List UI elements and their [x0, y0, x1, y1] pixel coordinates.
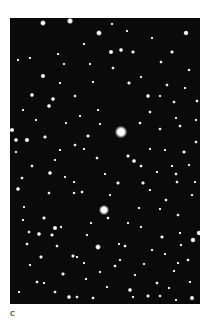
star: [43, 135, 47, 139]
star-field-image: [10, 18, 200, 304]
star: [64, 176, 67, 179]
star: [131, 295, 134, 298]
star: [170, 164, 173, 167]
star: [160, 235, 164, 239]
star: [30, 164, 34, 168]
star: [123, 244, 127, 248]
star-core: [96, 245, 99, 248]
star: [195, 99, 199, 103]
star: [150, 248, 153, 251]
star: [39, 255, 43, 259]
star: [188, 164, 191, 167]
star: [175, 180, 179, 184]
star: [17, 59, 20, 62]
star: [165, 83, 169, 87]
star: [75, 255, 78, 258]
star: [149, 189, 152, 192]
star: [116, 181, 120, 185]
star: [57, 53, 60, 56]
star: [155, 281, 159, 285]
star: [98, 270, 101, 273]
star-core: [48, 105, 50, 107]
star-core: [38, 233, 40, 235]
star: [28, 263, 31, 266]
star: [90, 222, 93, 225]
star: [172, 100, 176, 104]
star: [143, 263, 146, 266]
star: [63, 63, 66, 66]
star: [170, 50, 174, 54]
star: [194, 181, 197, 184]
star: [82, 147, 85, 150]
star: [190, 193, 193, 196]
star: [14, 150, 17, 153]
star: [187, 68, 190, 71]
star: [177, 262, 180, 265]
star-core: [192, 239, 195, 242]
star: [89, 63, 92, 66]
star: [47, 191, 51, 195]
star: [194, 118, 197, 121]
star: [139, 164, 143, 168]
star: [95, 156, 99, 160]
star: [175, 299, 178, 302]
star: [75, 295, 79, 299]
star: [71, 254, 75, 258]
star: [80, 190, 84, 194]
star: [27, 230, 31, 234]
star: [104, 173, 107, 176]
star: [82, 42, 85, 45]
star: [54, 159, 57, 162]
star: [72, 191, 75, 194]
star-core: [120, 49, 122, 51]
starfield-canvas: [10, 18, 200, 304]
star: [131, 50, 135, 54]
star: [148, 110, 152, 114]
star: [158, 94, 161, 97]
star-core: [42, 75, 45, 78]
panel-label: c: [10, 305, 15, 319]
star: [184, 87, 187, 90]
star: [106, 286, 109, 289]
star: [42, 216, 46, 220]
star: [118, 258, 121, 261]
star: [151, 37, 154, 40]
star: [17, 290, 20, 293]
star: [99, 123, 102, 126]
star-core: [17, 188, 19, 190]
star: [159, 60, 163, 64]
star: [79, 115, 82, 118]
star: [164, 253, 167, 256]
star: [127, 81, 131, 85]
star-core: [129, 289, 131, 291]
star: [141, 181, 145, 185]
star: [91, 80, 94, 83]
star-core: [11, 129, 14, 132]
star: [178, 124, 182, 128]
star: [175, 117, 178, 120]
star-core: [185, 32, 188, 35]
star-core: [31, 94, 33, 96]
star: [73, 94, 77, 98]
star: [137, 206, 140, 209]
star: [53, 290, 57, 294]
star: [134, 274, 137, 277]
star: [59, 149, 62, 152]
star: [86, 134, 90, 138]
star: [158, 294, 161, 297]
star-core: [26, 139, 29, 142]
star: [126, 221, 129, 224]
star-core: [15, 139, 17, 141]
star: [140, 76, 143, 79]
star: [146, 294, 150, 298]
star: [83, 262, 86, 265]
star: [86, 234, 89, 237]
star: [178, 231, 181, 234]
star: [172, 269, 175, 272]
star: [84, 277, 87, 280]
star: [149, 148, 152, 151]
star-core: [52, 98, 54, 100]
star: [194, 140, 198, 144]
star: [176, 213, 180, 217]
star: [35, 280, 39, 284]
